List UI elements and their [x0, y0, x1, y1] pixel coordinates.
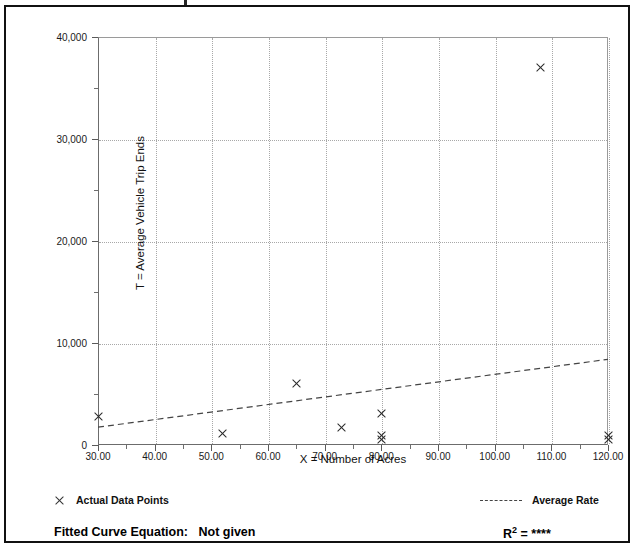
- data-point-marker: [93, 411, 104, 422]
- legend: Actual Data Points Average Rate: [6, 494, 628, 516]
- y-axis-minor-tick: [94, 292, 98, 293]
- x-gridline: [609, 38, 610, 444]
- data-point-marker: [376, 408, 387, 419]
- plot-wrapper: 30.0040.0050.0060.0070.0080.0090.00100.0…: [98, 37, 608, 445]
- r-squared-equals: =: [517, 527, 531, 541]
- y-axis-tick-label: 40,000: [56, 32, 96, 43]
- data-point-marker: [291, 378, 302, 389]
- y-axis-tick-label: 20,000: [56, 236, 96, 247]
- trend-line-layer: [98, 37, 608, 445]
- legend-item-actual-data-points: Actual Data Points: [54, 494, 169, 506]
- legend-label-actual-data-points: Actual Data Points: [76, 494, 169, 506]
- x-axis-minor-tick: [126, 445, 127, 449]
- data-point-marker: [535, 62, 546, 73]
- legend-item-average-rate: Average Rate: [480, 494, 599, 506]
- x-axis-minor-tick: [523, 445, 524, 449]
- y-axis-tick-label: 30,000: [56, 134, 96, 145]
- fitted-curve-equation: Fitted Curve Equation: Not given: [54, 525, 255, 539]
- y-axis-title: T = Average Vehicle Trip Ends: [134, 83, 146, 343]
- x-axis-minor-tick: [296, 445, 297, 449]
- r-squared-statistic: R2 = ****: [503, 525, 551, 541]
- average-rate-trend-line: [98, 359, 608, 427]
- y-axis-minor-tick: [94, 88, 98, 89]
- equation-value: Not given: [198, 525, 255, 539]
- x-axis-title: X = Number of Acres: [98, 453, 608, 465]
- x-axis-minor-tick: [410, 445, 411, 449]
- chart-frame-border: 30.0040.0050.0060.0070.0080.0090.00100.0…: [4, 5, 630, 543]
- x-axis-minor-tick: [240, 445, 241, 449]
- chart-footer: Fitted Curve Equation: Not given R2 = **…: [6, 525, 628, 549]
- x-axis-minor-tick: [466, 445, 467, 449]
- data-point-marker: [376, 434, 387, 445]
- y-axis-minor-tick: [94, 190, 98, 191]
- x-axis-minor-tick: [183, 445, 184, 449]
- y-axis-tick-label: 10,000: [56, 338, 96, 349]
- r-squared-value: ****: [531, 527, 550, 541]
- x-axis-minor-tick: [580, 445, 581, 449]
- data-point-marker: [217, 428, 228, 439]
- equation-label: Fitted Curve Equation:: [54, 525, 188, 539]
- legend-label-average-rate: Average Rate: [532, 494, 599, 506]
- y-axis-minor-tick: [94, 394, 98, 395]
- y-axis-tick-label: 0: [81, 440, 96, 451]
- r-squared-symbol: R: [503, 527, 512, 541]
- x-marker-icon: [54, 495, 65, 506]
- data-point-marker: [603, 434, 614, 445]
- data-point-marker: [336, 422, 347, 433]
- chart-page: 30.0040.0050.0060.0070.0080.0090.00100.0…: [0, 0, 636, 549]
- dashed-line-icon: [480, 500, 522, 501]
- x-axis-minor-tick: [353, 445, 354, 449]
